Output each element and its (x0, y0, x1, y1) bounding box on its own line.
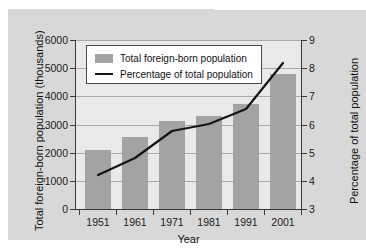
top-right-white-margin (214, 0, 366, 10)
line-swatch-icon (95, 73, 113, 75)
x-axis-line (70, 209, 307, 210)
legend-item-line: Percentage of total population (95, 67, 253, 81)
x-tick-6 (301, 210, 302, 215)
left-tick-4000 (70, 96, 75, 97)
left-axis-title: Total foreign-born population (thousands… (33, 31, 45, 231)
left-axis-line (75, 40, 76, 210)
x-tick-0 (79, 210, 80, 215)
right-tick-6 (302, 125, 307, 126)
legend-label-bar: Total foreign-born population (120, 53, 247, 64)
x-tick-5 (264, 210, 265, 215)
right-tick-4 (302, 181, 307, 182)
right-tick-5 (302, 153, 307, 154)
right-tick-8 (302, 68, 307, 69)
right-ticklabel-8: 8 (309, 63, 329, 73)
left-tick-1000 (70, 181, 75, 182)
left-tick-5000 (70, 68, 75, 69)
right-ticklabel-6: 6 (309, 120, 329, 130)
left-tick-0 (70, 209, 75, 210)
right-ticklabel-7: 7 (309, 91, 329, 101)
x-ticklabel-1961: 1961 (115, 216, 155, 228)
bar-swatch-icon (95, 54, 113, 63)
legend-label-line: Percentage of total population (120, 69, 253, 80)
right-ticklabel-5: 5 (309, 148, 329, 158)
chart-legend: Total foreign-born population Percentage… (86, 45, 262, 84)
right-ticklabel-9: 9 (309, 35, 329, 45)
x-tick-1 (116, 210, 117, 215)
x-axis-title: Year (76, 233, 301, 245)
right-axis-title: Percentage of total population (348, 31, 360, 231)
left-tick-2000 (70, 153, 75, 154)
legend-item-bar: Total foreign-born population (95, 51, 247, 65)
x-ticklabel-2001: 2001 (263, 216, 303, 228)
x-tick-3 (190, 210, 191, 215)
right-tick-3 (302, 209, 307, 210)
x-ticklabel-1981: 1981 (189, 216, 229, 228)
right-ticklabel-3: 3 (309, 204, 329, 214)
x-tick-2 (153, 210, 154, 215)
right-ticklabel-4: 4 (309, 176, 329, 186)
x-ticklabel-1991: 1991 (226, 216, 266, 228)
right-tick-7 (302, 96, 307, 97)
x-tick-4 (227, 210, 228, 215)
chart-card: 6000 5000 4000 3000 2000 1000 0 9 8 7 6 … (8, 9, 366, 240)
left-tick-6000 (70, 40, 75, 41)
x-ticklabel-1971: 1971 (152, 216, 192, 228)
left-tick-3000 (70, 125, 75, 126)
x-ticklabel-1951: 1951 (78, 216, 118, 228)
right-tick-9 (302, 40, 307, 41)
